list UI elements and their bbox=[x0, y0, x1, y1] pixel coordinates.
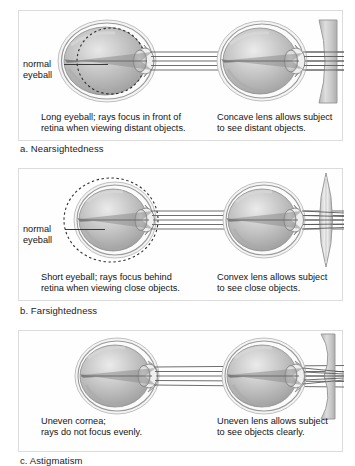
leader-line-b bbox=[65, 229, 105, 230]
eye-long-uncorrected bbox=[58, 20, 156, 102]
light-rays-right-a bbox=[303, 52, 344, 70]
concave-lens bbox=[319, 20, 337, 103]
section-label-astigmatism: c. Astigmatism bbox=[20, 455, 83, 466]
annotation-normal-eyeball-b: normal eyeball bbox=[23, 224, 52, 246]
panel-astigmatism: Uneven cornea; rays do not focus evenly.… bbox=[18, 330, 343, 452]
panel-farsightedness: normal eyeball Short eyeball; rays focus… bbox=[18, 168, 343, 301]
leader-line-a bbox=[64, 64, 108, 65]
illustration-row-nearsightedness bbox=[19, 11, 344, 111]
uneven-lens bbox=[321, 334, 335, 419]
caption-left-b: Short eyeball; rays focus behind retina … bbox=[41, 272, 180, 293]
eye-uneven-cornea-uncorrected bbox=[75, 338, 159, 414]
caption-right-c: Uneven lens allows subject to see object… bbox=[217, 416, 328, 437]
section-label-farsightedness: b. Farsightedness bbox=[20, 305, 97, 316]
eye-long-corrected bbox=[217, 21, 307, 101]
caption-left-a: Long eyeball; rays focus in front of ret… bbox=[41, 112, 186, 133]
eye-short-uncorrected bbox=[64, 178, 158, 262]
annotation-normal-eyeball-a: normal eyeball bbox=[23, 59, 52, 81]
caption-left-c: Uneven cornea; rays do not focus evenly. bbox=[41, 416, 142, 437]
caption-right-a: Concave lens allows subject to see dista… bbox=[217, 112, 332, 133]
illustration-row-farsightedness bbox=[19, 169, 344, 271]
section-label-nearsightedness: a. Nearsightedness bbox=[20, 143, 104, 154]
eye-short-corrected bbox=[223, 182, 305, 258]
panel-nearsightedness: normal eyeball Long eyeball; rays focus … bbox=[18, 10, 343, 141]
caption-right-b: Convex lens allows subject to see close … bbox=[217, 272, 327, 293]
illustration-row-astigmatism bbox=[19, 331, 344, 423]
eye-uneven-cornea-corrected bbox=[222, 338, 306, 414]
